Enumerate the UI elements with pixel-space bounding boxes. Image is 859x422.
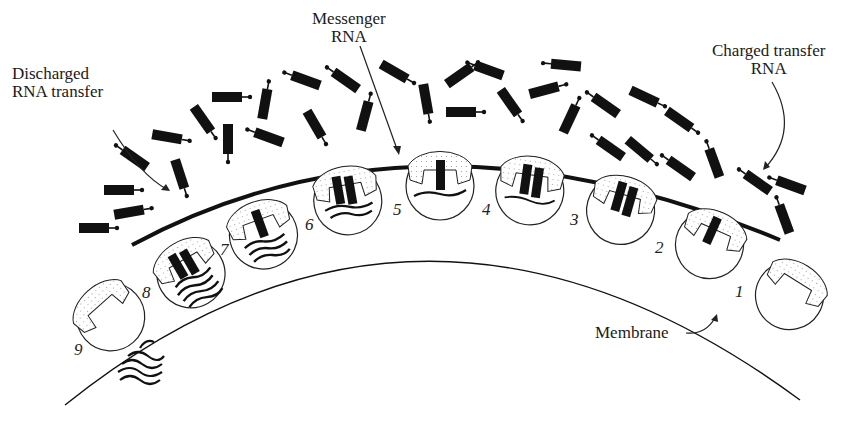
ribosome-1 [743,248,837,342]
ribosome-number-9: 9 [74,340,83,360]
ribosome-number-4: 4 [482,200,491,220]
charged-trna-label: Charged transfer RNA [712,42,825,78]
ribosome-number-3: 3 [570,210,579,230]
ribosome-number-8: 8 [142,283,151,303]
ribosome-number-1: 1 [735,282,744,302]
polysome-diagram: Discharged RNA transfer Messenger RNA Ch… [0,0,859,422]
ribosome-2 [665,199,755,289]
ribosome-6 [308,161,387,240]
membrane-label: Membrane [595,324,669,342]
ribosome-5 [406,151,474,220]
ribosome-number-7: 7 [220,240,229,260]
ribosome-number-6: 6 [305,215,314,235]
ribosome-number-2: 2 [655,238,664,258]
messenger-rna-label: Messenger RNA [312,10,386,46]
ribosome-number-5: 5 [393,200,402,220]
arrow-charged [765,82,784,168]
arrow-messenger [360,46,398,152]
ribosome-7 [220,191,307,279]
ribosome-4 [491,152,568,229]
discharged-rna-label: Discharged RNA transfer [12,65,103,101]
